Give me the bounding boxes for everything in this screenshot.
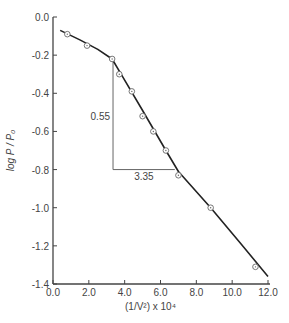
data-point-center: [67, 33, 68, 34]
y-tick-label: -1.0: [32, 203, 50, 214]
data-point-center: [111, 58, 112, 59]
x-tick-label: 12.0: [258, 287, 278, 298]
data-point-center: [153, 131, 154, 132]
x-tick-label: 4.0: [118, 287, 132, 298]
y-tick-label: -0.4: [32, 88, 50, 99]
data-point-center: [255, 266, 256, 267]
data-point-center: [165, 150, 166, 151]
data-point-center: [131, 91, 132, 92]
y-tick-label: -0.6: [32, 126, 50, 137]
fitted-curve: [60, 30, 268, 276]
data-point-center: [86, 45, 87, 46]
x-tick-label: 0.0: [46, 287, 60, 298]
slope-rise-label: 0.55: [91, 111, 111, 122]
data-point-center: [119, 74, 120, 75]
x-axis-label: (1/V²) x 10⁴: [125, 301, 176, 312]
data-point-center: [210, 207, 211, 208]
x-tick-label: 2.0: [82, 287, 96, 298]
y-tick-label: 0.0: [35, 12, 49, 23]
y-tick-label: -1.2: [32, 241, 50, 252]
y-tick-label: -0.2: [32, 50, 50, 61]
slope-run-label: 3.35: [134, 171, 154, 182]
y-tick-label: -0.8: [32, 165, 50, 176]
y-axis-label: log P / P₀: [5, 130, 16, 172]
x-tick-label: 6.0: [154, 287, 168, 298]
chart: 0.0-0.2-0.4-0.6-0.8-1.0-1.2-1.40.02.04.0…: [0, 0, 289, 323]
x-tick-label: 10.0: [222, 287, 242, 298]
data-point-center: [142, 115, 143, 116]
data-point-center: [178, 175, 179, 176]
x-tick-label: 8.0: [189, 287, 203, 298]
